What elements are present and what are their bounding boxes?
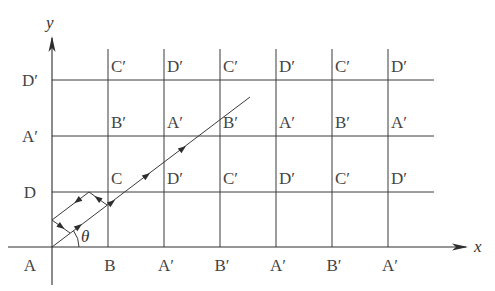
image-point-label: D′ bbox=[391, 169, 407, 188]
image-point-label: B′ bbox=[223, 113, 238, 132]
axis-point-label: A′ bbox=[22, 127, 38, 146]
point-labels: D′A′DABA′B′A′B′A′C′D′C′D′C′D′B′A′B′A′B′A… bbox=[22, 57, 407, 275]
image-point-label: D′ bbox=[279, 169, 295, 188]
image-point-label: C′ bbox=[335, 169, 350, 188]
axis-point-label: B bbox=[104, 256, 115, 275]
image-point-label: C′ bbox=[111, 57, 126, 76]
grid-lines bbox=[52, 49, 434, 247]
x-axis-label: x bbox=[473, 237, 482, 256]
image-point-label: A′ bbox=[279, 113, 295, 132]
image-point-label: C′ bbox=[335, 57, 350, 76]
image-point-label: B′ bbox=[111, 113, 126, 132]
reflection-grid-diagram: D′A′DABA′B′A′B′A′C′D′C′D′C′D′B′A′B′A′B′A… bbox=[0, 0, 495, 291]
image-point-label: C′ bbox=[223, 169, 238, 188]
axis-point-label: A bbox=[24, 256, 37, 275]
image-point-label: A′ bbox=[391, 113, 407, 132]
axis-point-label: D′ bbox=[22, 71, 38, 90]
axis-point-label: A′ bbox=[270, 256, 286, 275]
reflection-arrow-icon bbox=[56, 222, 64, 229]
axis-point-label: A′ bbox=[158, 256, 174, 275]
axis-point-label: D bbox=[24, 183, 36, 202]
image-point-label: D′ bbox=[279, 57, 295, 76]
ray-direction-arrow-icon bbox=[142, 173, 150, 180]
angle-theta-label: θ bbox=[81, 227, 89, 246]
y-axis-label: y bbox=[44, 13, 54, 32]
ray-direction-arrow-icon bbox=[178, 146, 186, 153]
image-point-label: A′ bbox=[167, 113, 183, 132]
reflection-arrow-icon bbox=[74, 196, 82, 203]
axis-point-label: B′ bbox=[214, 256, 229, 275]
image-point-label: C bbox=[111, 169, 122, 188]
angle-arc bbox=[74, 231, 80, 247]
axis-point-label: B′ bbox=[326, 256, 341, 275]
image-point-label: C′ bbox=[223, 57, 238, 76]
image-point-label: B′ bbox=[335, 113, 350, 132]
axis-point-label: A′ bbox=[382, 256, 398, 275]
image-point-label: D′ bbox=[167, 169, 183, 188]
image-point-label: D′ bbox=[167, 57, 183, 76]
image-point-label: D′ bbox=[391, 57, 407, 76]
reflection-arrow-icon bbox=[94, 196, 102, 203]
